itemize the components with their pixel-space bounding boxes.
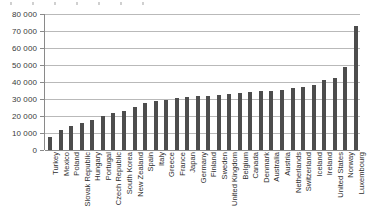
bar[interactable] xyxy=(206,96,210,150)
bar[interactable] xyxy=(80,123,84,150)
bar[interactable] xyxy=(154,101,158,150)
bar[interactable] xyxy=(196,96,200,150)
bar[interactable] xyxy=(301,87,305,150)
x-axis-labels: TurkeyMexicoPolandSlovak RepublicHungary… xyxy=(44,152,360,220)
y-axis-tick-label: 0 xyxy=(0,146,37,155)
bar[interactable] xyxy=(133,107,137,150)
bar-slot xyxy=(45,14,56,150)
bar[interactable] xyxy=(343,67,347,150)
y-axis-tick-label: 30 000 xyxy=(0,95,37,104)
x-axis-tick-label: Luxembourg xyxy=(358,152,366,194)
x-axis-tick-label: Hungary xyxy=(94,152,102,181)
x-axis-tick-label: New Zealand xyxy=(137,152,145,197)
bar-slot xyxy=(214,14,225,150)
y-axis-tick-label: 70 000 xyxy=(0,27,37,36)
bar-slot xyxy=(308,14,319,150)
y-axis-tick xyxy=(40,31,44,32)
bar-slot xyxy=(108,14,119,150)
x-axis-tick-label: Netherlands xyxy=(295,152,303,193)
y-axis-tick-label: 40 000 xyxy=(0,78,37,87)
y-axis-tick xyxy=(40,99,44,100)
x-axis-tick-label: Poland xyxy=(73,152,81,176)
y-axis-tick-label: 10 000 xyxy=(0,129,37,138)
bar-slot xyxy=(119,14,130,150)
y-axis-tick xyxy=(40,65,44,66)
bar[interactable] xyxy=(90,120,94,150)
bar[interactable] xyxy=(322,80,326,150)
bar[interactable] xyxy=(227,94,231,150)
x-axis-tick-label: Portugal xyxy=(105,152,113,180)
bar-slot xyxy=(129,14,140,150)
x-axis-tick-label: Sweden xyxy=(221,152,229,179)
x-axis-tick-label: Mexico xyxy=(63,152,71,176)
bar-slot xyxy=(266,14,277,150)
x-axis-tick-label: Canada xyxy=(252,152,260,179)
scan-artifact xyxy=(10,2,160,5)
bar-slot xyxy=(350,14,361,150)
bar-slot xyxy=(287,14,298,150)
x-axis-tick-label: Australia xyxy=(273,152,281,182)
x-axis-tick-label: United States xyxy=(337,152,345,198)
bar-slot xyxy=(192,14,203,150)
x-axis-tick-label: Austria xyxy=(284,152,292,176)
y-axis-tick xyxy=(40,82,44,83)
bar[interactable] xyxy=(248,92,252,150)
y-axis-tick xyxy=(40,14,44,15)
x-axis-tick-label: Czech Republic xyxy=(115,152,123,205)
bar-slot xyxy=(182,14,193,150)
bar[interactable] xyxy=(291,88,295,150)
bar-slot xyxy=(277,14,288,150)
x-axis-tick-label: France xyxy=(179,152,187,176)
bar[interactable] xyxy=(59,130,63,150)
bar-slot xyxy=(298,14,309,150)
y-axis-tick xyxy=(40,150,44,151)
bar-slot xyxy=(77,14,88,150)
y-axis-tick-label: 50 000 xyxy=(0,61,37,70)
bar-slot xyxy=(171,14,182,150)
x-axis-tick-label: Belgium xyxy=(242,152,250,179)
bar-slot xyxy=(319,14,330,150)
x-axis-tick-label: Italy xyxy=(158,152,166,166)
bar[interactable] xyxy=(280,90,284,150)
bar[interactable] xyxy=(269,91,273,151)
x-axis-tick-label: Slovak Republic xyxy=(84,152,92,207)
x-axis-tick-label: Iceland xyxy=(316,152,324,177)
bar-slot xyxy=(256,14,267,150)
plot-area xyxy=(44,14,360,150)
bar[interactable] xyxy=(354,26,358,150)
bar[interactable] xyxy=(175,98,179,150)
bar[interactable] xyxy=(312,85,316,150)
bar[interactable] xyxy=(122,111,126,150)
bar[interactable] xyxy=(48,137,52,150)
bar-slot xyxy=(98,14,109,150)
bar-slot xyxy=(203,14,214,150)
bar[interactable] xyxy=(69,126,73,150)
bar-slot xyxy=(329,14,340,150)
bar-slot xyxy=(224,14,235,150)
bar-slot xyxy=(245,14,256,150)
bar-slot xyxy=(150,14,161,150)
bar[interactable] xyxy=(111,113,115,150)
bar[interactable] xyxy=(259,91,263,150)
bar-chart-figure: 010 00020 00030 00040 00050 00060 00070 … xyxy=(0,0,368,220)
bar[interactable] xyxy=(238,93,242,150)
y-axis-tick-label: 80 000 xyxy=(0,10,37,19)
bar[interactable] xyxy=(333,78,337,150)
bar-slot xyxy=(140,14,151,150)
bar-slot xyxy=(161,14,172,150)
x-axis-tick-label: Turkey xyxy=(52,152,60,175)
bar[interactable] xyxy=(217,95,221,150)
x-axis-tick-label: Japan xyxy=(189,152,197,173)
x-axis-tick-label: Greece xyxy=(168,152,176,177)
x-axis-tick-label: Finland xyxy=(210,152,218,177)
bar[interactable] xyxy=(143,103,147,150)
x-axis-tick-label: South Korea xyxy=(126,152,134,194)
x-axis-tick-label: Ireland xyxy=(326,152,334,175)
bar[interactable] xyxy=(164,100,168,150)
bar-slot xyxy=(340,14,351,150)
bar[interactable] xyxy=(101,116,105,150)
x-axis-tick-label: Germany xyxy=(200,152,208,183)
bar[interactable] xyxy=(185,97,189,150)
x-axis-tick-label: Switzerland xyxy=(305,152,313,191)
x-axis-tick-label: Denmark xyxy=(263,152,271,183)
